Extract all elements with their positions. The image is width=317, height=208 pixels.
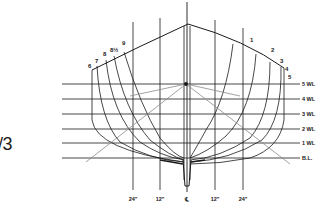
waterline-label-4: 4 WL xyxy=(302,96,316,102)
station-label-5: 5 xyxy=(288,74,292,80)
cropped-caption-fragment: /3 xyxy=(0,134,12,155)
waterline-label-3: 3 WL xyxy=(302,111,316,117)
station-2 xyxy=(190,54,256,158)
station-label-6: 6 xyxy=(88,63,92,69)
bottom-label-24-left: 24" xyxy=(129,196,138,202)
station-label-8: 8 xyxy=(103,51,107,57)
station-label-7: 7 xyxy=(95,58,99,64)
waterline-label-1: 1 WL xyxy=(302,140,316,146)
bottom-label-centerline: ℄ xyxy=(184,196,189,202)
station-label-4: 4 xyxy=(285,66,289,72)
station-label-2: 2 xyxy=(271,47,275,53)
body-plan-diagram: /3 xyxy=(0,0,317,208)
station-4 xyxy=(190,67,281,162)
station-label-3: 3 xyxy=(280,58,284,64)
bottom-label-12-right: 12" xyxy=(211,196,220,202)
bottom-label-12-left: 12" xyxy=(156,196,165,202)
station-5 xyxy=(190,68,284,164)
station-3 xyxy=(190,62,270,160)
station-label-8-half: 8½ xyxy=(110,47,118,53)
waterline-label-2: 2 WL xyxy=(302,126,316,132)
hull-lines-drawing: 6 7 8 8½ 9 1 2 3 4 5 5 WL 4 WL 3 WL 2 WL… xyxy=(0,0,317,208)
station-label-1: 1 xyxy=(250,37,254,43)
bottom-label-24-right: 24" xyxy=(239,196,248,202)
base-line-label: B.L. xyxy=(302,155,313,161)
station-label-9: 9 xyxy=(122,40,126,46)
station-1 xyxy=(190,44,233,158)
waterline-label-5: 5 WL xyxy=(302,81,316,87)
